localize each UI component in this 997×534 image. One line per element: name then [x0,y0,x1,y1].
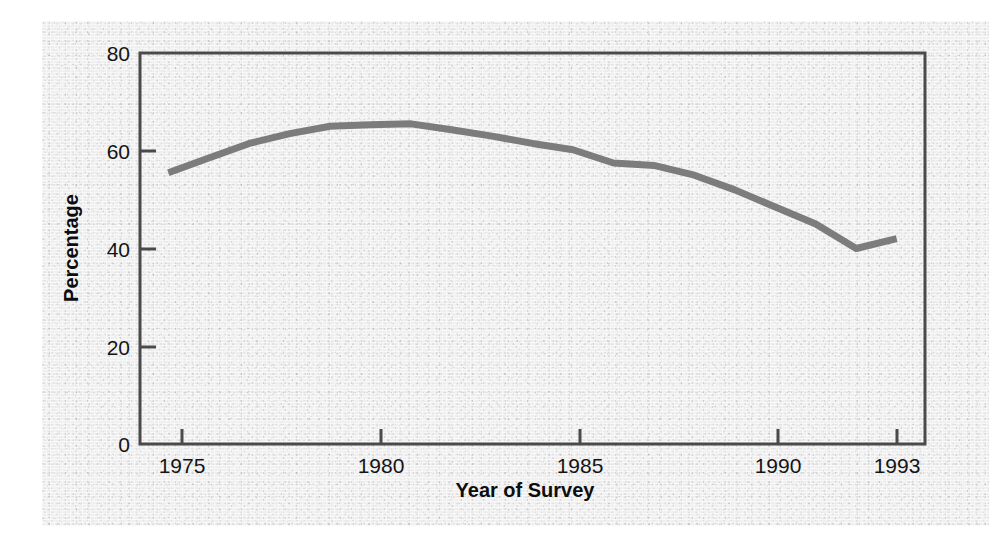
x-tick-label-1990: 1990 [755,454,802,477]
figure-container: 80 60 40 20 0 1975 1980 1985 1990 1993 P… [0,0,997,534]
x-tick-label-1980: 1980 [358,454,405,477]
y-tick-label-20: 20 [107,336,130,359]
y-axis-title: Percentage [60,194,82,302]
data-series-line [168,124,896,249]
x-tick-label-1985: 1985 [557,454,604,477]
y-tick-label-0: 0 [118,433,130,456]
y-tick-label-60: 60 [107,140,130,163]
x-axis-ticks [182,429,897,444]
x-axis-title: Year of Survey [456,479,596,501]
y-tick-label-40: 40 [107,238,130,261]
y-axis-ticks [140,53,156,444]
line-chart: 80 60 40 20 0 1975 1980 1985 1990 1993 P… [0,0,997,534]
x-tick-label-1993: 1993 [874,454,921,477]
y-tick-label-80: 80 [107,42,130,65]
x-tick-label-1975: 1975 [159,454,206,477]
x-axis-tick-labels: 1975 1980 1985 1990 1993 [159,454,921,477]
y-axis-tick-labels: 80 60 40 20 0 [107,42,130,456]
axis-frame [140,53,925,444]
